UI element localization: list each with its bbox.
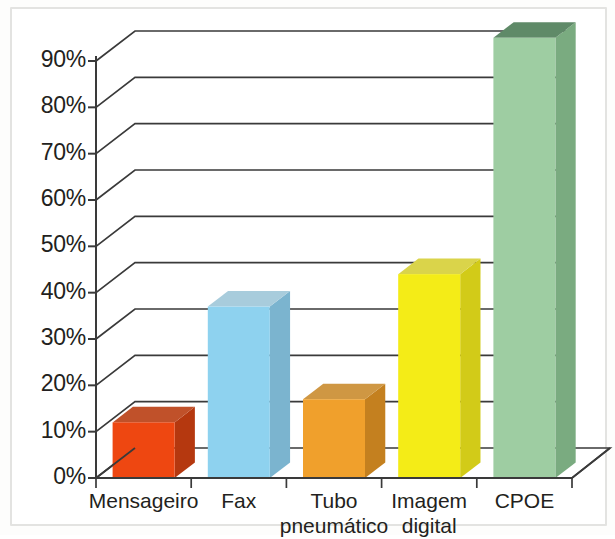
y-axis-tick-label: 40% <box>0 278 86 305</box>
y-axis-tick-label: 70% <box>0 139 86 166</box>
y-axis-tick-label: 10% <box>0 417 86 444</box>
bar-1 <box>113 407 195 478</box>
x-axis-ticks <box>96 478 572 488</box>
depth-axis-line-right <box>572 448 610 478</box>
bar-group <box>113 22 576 478</box>
bar-5 <box>493 22 575 478</box>
y-axis-tick-label: 60% <box>0 185 86 212</box>
x-axis-tick-label: CPOE <box>459 489 589 514</box>
y-axis-ticks <box>88 61 96 478</box>
bar-4 <box>398 259 480 478</box>
y-axis-tick-label: 80% <box>0 92 86 119</box>
y-axis-tick-label: 90% <box>0 46 86 73</box>
y-axis-tick-label: 0% <box>0 463 86 490</box>
bar-3 <box>303 384 385 478</box>
y-axis-tick-label: 20% <box>0 370 86 397</box>
y-axis-tick-label: 50% <box>0 231 86 258</box>
y-axis-tick-label: 30% <box>0 324 86 351</box>
bar-2 <box>208 291 290 478</box>
